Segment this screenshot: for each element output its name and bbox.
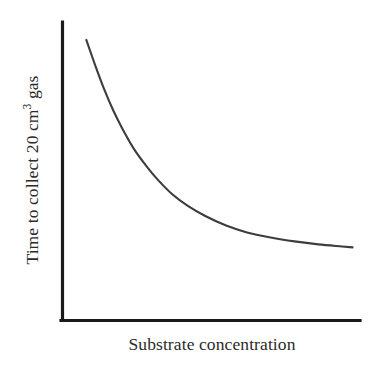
y-axis-label-superscript: 3 — [21, 104, 33, 110]
y-axis-label-text-after: gas — [22, 75, 42, 103]
data-curve-time-to-collect-gas — [86, 40, 352, 247]
data-series-group — [86, 40, 352, 247]
y-axis-label: Time to collect 20 cm3 gas — [18, 10, 48, 330]
y-axis-label-text-before: Time to collect 20 cm — [22, 109, 42, 264]
axes-group — [61, 22, 360, 321]
chart-plot-area — [0, 0, 379, 384]
chart-figure: Time to collect 20 cm3 gas Substrate con… — [0, 0, 379, 384]
x-axis-label: Substrate concentration — [62, 336, 362, 354]
